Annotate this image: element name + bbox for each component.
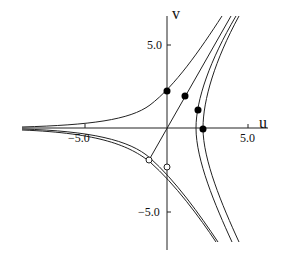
tick-label-v-5: 5.0 [147,38,162,53]
filled-point [195,107,202,114]
diagram: v u 5.0 −5.0 −5.0 5.0 [0,0,282,254]
filled-point [200,126,207,133]
curve-upper-left [22,16,222,127]
v-axis-label: v [172,5,180,23]
filled-point [182,93,189,100]
open-point [164,164,170,170]
curve-right-outer [203,16,239,242]
open-point [146,157,152,163]
curve-lower-left [22,129,218,242]
tick-label-v-neg5: −5.0 [138,205,160,220]
u-axis-label: u [259,114,267,132]
curve-lower-left-2 [22,130,216,242]
tick-label-u-neg5: −5.0 [68,131,90,146]
tick-label-u-5: 5.0 [240,131,255,146]
filled-point [164,88,171,95]
